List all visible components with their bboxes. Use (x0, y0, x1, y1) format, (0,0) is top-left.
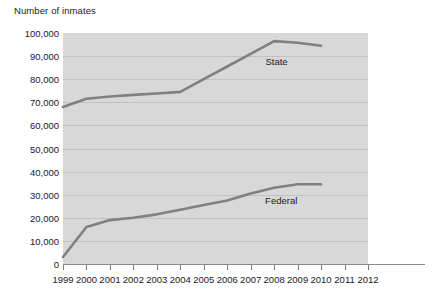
x-axis-tick-label: 2011 (334, 274, 354, 285)
y-axis-tick-label: 80,000 (30, 74, 59, 85)
line-chart: Number of inmates 100,00090,00080,00070,… (0, 0, 437, 297)
y-axis-tick-label: 40,000 (30, 166, 59, 177)
y-axis-tick-label: 50,000 (30, 143, 59, 154)
gridline (63, 102, 368, 103)
y-axis-tick-label: 100,000 (25, 28, 59, 39)
y-axis-tick-label: 70,000 (30, 97, 59, 108)
y-axis-tick-label: 30,000 (30, 189, 59, 200)
x-axis-tick-label: 2003 (146, 274, 167, 285)
gridline (63, 125, 368, 126)
gridline (63, 195, 368, 196)
x-axis-tick-label: 2002 (123, 274, 144, 285)
y-axis-tick-label: 10,000 (30, 235, 59, 246)
y-axis-title: Number of inmates (14, 5, 96, 16)
plot-area (63, 33, 368, 264)
x-axis-tick-label: 2005 (193, 274, 214, 285)
gridline (63, 218, 368, 219)
x-axis-tick-label: 2007 (240, 274, 261, 285)
gridline (63, 149, 368, 150)
x-axis-tick-label: 2001 (99, 274, 120, 285)
gridline (63, 79, 368, 80)
y-axis-tick-label: 0 (54, 259, 59, 270)
series-label-federal: Federal (265, 194, 297, 205)
gridline (63, 172, 368, 173)
x-axis-tick-label: 2008 (264, 274, 285, 285)
x-axis-tick-label: 2009 (287, 274, 308, 285)
y-axis-tick-label: 20,000 (30, 212, 59, 223)
gridline (63, 56, 368, 57)
x-axis-tick-label: 2012 (357, 274, 378, 285)
x-axis-tick-label: 2010 (310, 274, 331, 285)
x-axis-tick-label: 2006 (217, 274, 238, 285)
x-axis-tick-label: 2004 (170, 274, 191, 285)
series-label-state: State (265, 55, 287, 66)
y-axis-tick-label: 90,000 (30, 51, 59, 62)
gridline (63, 241, 368, 242)
x-axis-tick-label: 2000 (76, 274, 97, 285)
y-axis-tick-label: 60,000 (30, 120, 59, 131)
x-axis-baseline (63, 264, 425, 265)
x-axis-tick-label: 1999 (52, 274, 73, 285)
